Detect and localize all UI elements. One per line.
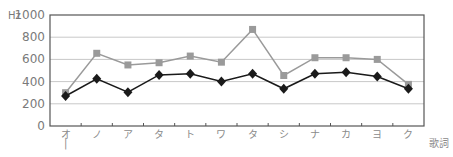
gridlines <box>50 37 424 104</box>
x-category-label: ト <box>185 129 195 140</box>
diamond-marker <box>123 87 132 97</box>
square-marker <box>187 53 194 60</box>
y-tick-label: 200 <box>22 97 45 111</box>
diamond-marker <box>310 69 319 79</box>
x-category-label: ク <box>403 129 413 140</box>
diamond-marker <box>186 69 195 79</box>
black-diamond-series <box>61 67 413 101</box>
y-tick-label: 400 <box>22 75 45 89</box>
diamond-marker <box>248 69 257 79</box>
y-tick-label: 600 <box>22 52 45 66</box>
plot-frame <box>50 15 424 126</box>
x-category-label: ヨ <box>372 129 382 140</box>
diamond-marker <box>155 70 164 80</box>
x-category-label: | <box>64 138 67 150</box>
x-category-label: シ <box>279 129 289 140</box>
series-line <box>66 29 409 92</box>
line-chart: 02004006008001000 Hz オ|ノアタトワタシナカヨク 歌詞 <box>0 0 453 157</box>
square-marker <box>156 59 163 66</box>
x-category-label: ノ <box>92 129 102 140</box>
square-marker <box>311 54 318 61</box>
diamond-marker <box>342 67 351 77</box>
y-tick-label: 800 <box>22 30 45 44</box>
x-category-label: タ <box>154 129 164 140</box>
x-category-label: タ <box>248 129 258 140</box>
plot-border <box>50 15 424 126</box>
square-marker <box>343 54 350 61</box>
y-axis-tick-labels: 02004006008001000 <box>14 8 45 133</box>
x-category-label: カ <box>341 129 351 140</box>
square-marker <box>124 61 131 68</box>
x-axis-title: 歌詞 <box>429 137 449 149</box>
y-tick-label: 0 <box>37 119 45 133</box>
series-line <box>66 72 409 96</box>
diamond-marker <box>279 84 288 94</box>
square-marker <box>249 26 256 33</box>
figure-caption-cutoff <box>0 150 453 157</box>
diamond-marker <box>217 77 226 87</box>
y-axis-unit-label: Hz <box>8 10 21 21</box>
x-category-label: ア <box>123 129 133 140</box>
square-marker <box>218 59 225 66</box>
x-axis-category-labels: オ|ノアタトワタシナカヨク <box>61 129 414 150</box>
square-marker <box>280 72 287 79</box>
diamond-marker <box>373 72 382 82</box>
square-marker <box>374 56 381 63</box>
x-category-label: ワ <box>216 129 226 140</box>
x-category-label: ナ <box>310 129 320 140</box>
diamond-marker <box>92 74 101 84</box>
square-marker <box>93 50 100 57</box>
